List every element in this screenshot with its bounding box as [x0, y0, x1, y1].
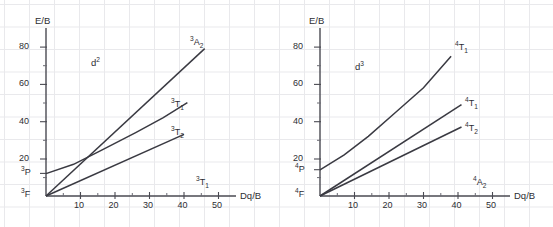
term-label-4P: 4P — [295, 165, 305, 174]
y-tick-label-20: 20 — [19, 154, 29, 163]
y-tick-label-80: 80 — [19, 42, 29, 51]
x-tick-label-50: 50 — [486, 201, 496, 210]
curve-4T1-upper-sub: 1 — [464, 47, 468, 54]
term-label-4F: 4F — [295, 190, 304, 199]
term-label-3P: 3P — [21, 168, 31, 177]
y-tick-label-60: 60 — [293, 79, 303, 88]
curve-label-4T1-lower: 4T1 — [465, 99, 478, 108]
figure-canvas: E/B 80 60 40 20 3P 3F 10 20 30 40 50 Dq/… — [0, 0, 553, 227]
curve-3A2 — [46, 49, 205, 196]
term-4P-base: P — [299, 164, 305, 174]
curve-4T2-sub: 2 — [474, 128, 478, 135]
curve-4T1-lower-sub: 1 — [474, 103, 478, 110]
x-tick-label-10: 10 — [74, 201, 84, 210]
configuration-label-d2: d2 — [91, 58, 100, 68]
x-axis-title: Dq/B — [514, 191, 535, 201]
x-tick-label-20: 20 — [383, 201, 393, 210]
chart-panel-d2: E/B 80 60 40 20 3P 3F 10 20 30 40 50 Dq/… — [0, 0, 276, 227]
y-tick-label-40: 40 — [293, 117, 303, 126]
configuration-label-d3: d3 — [355, 62, 364, 72]
curve-4T1-lower — [320, 105, 462, 196]
curve-label-4T2: 4T2 — [465, 124, 478, 133]
term-4F-base: F — [299, 189, 305, 199]
term-label-axis-3T1: 3T1 — [196, 178, 209, 187]
chart-svg-d3 — [277, 0, 553, 227]
y-axis-title: E/B — [35, 16, 50, 26]
x-tick-label-50: 50 — [212, 201, 222, 210]
x-axis-title-dq: Dq — [514, 190, 526, 201]
y-tick-label-80: 80 — [293, 42, 303, 51]
curve-4T2 — [320, 127, 462, 196]
y-axis-title-b: B — [44, 15, 50, 26]
chart-svg-d2 — [0, 0, 276, 227]
chart-panel-d3: E/B 80 60 40 20 4P 4F 10 20 30 40 50 Dq/… — [277, 0, 553, 227]
y-tick-label-40: 40 — [19, 117, 29, 126]
x-axis-title-b: B — [529, 190, 535, 201]
x-tick-label-40: 40 — [178, 201, 188, 210]
x-tick-label-40: 40 — [452, 201, 462, 210]
curve-3T1-sub: 1 — [180, 104, 184, 111]
x-tick-label-10: 10 — [348, 201, 358, 210]
curve-label-3A2: 3A2 — [190, 38, 203, 47]
y-axis-title: E/B — [309, 16, 324, 26]
configuration-d2-sup: 2 — [96, 56, 100, 63]
x-axis-title-dq: Dq — [240, 190, 252, 201]
curve-label-3T2: 3T2 — [171, 128, 184, 137]
curve-3A2-sub: 2 — [200, 42, 204, 49]
term-3F-base: F — [25, 189, 31, 199]
x-axis-title: Dq/B — [240, 191, 261, 201]
term-axis-3T1-sub: 1 — [205, 182, 209, 189]
x-tick-label-20: 20 — [109, 201, 119, 210]
x-axis-title-b: B — [255, 190, 261, 201]
x-tick-label-30: 30 — [417, 201, 427, 210]
term-axis-4A2-sub: 2 — [483, 182, 487, 189]
curve-3T2-sub: 2 — [180, 132, 184, 139]
y-axis-title-b: B — [318, 15, 324, 26]
x-tick-label-30: 30 — [143, 201, 153, 210]
configuration-d3-sup: 3 — [360, 60, 364, 67]
curve-label-3T1: 3T1 — [171, 100, 184, 109]
term-label-3F: 3F — [21, 190, 30, 199]
curve-label-4T1-upper: 4T1 — [455, 43, 468, 52]
term-3P-base: P — [25, 167, 31, 177]
curve-3T1 — [46, 103, 187, 174]
term-label-axis-4A2: 4A2 — [473, 178, 486, 187]
y-tick-label-60: 60 — [19, 79, 29, 88]
